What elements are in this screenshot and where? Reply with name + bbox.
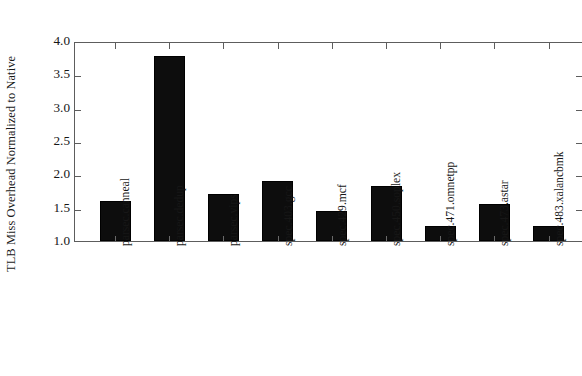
y-axis-title-container: TLB Miss Overhead Normalized to Native: [0, 0, 28, 280]
y-axis-tick-3.5: [75, 76, 81, 77]
y-axis-tick-label: 2.0: [28, 166, 70, 182]
x-axis-top-tick-parsec.canneal: [115, 43, 116, 49]
x-axis-bottom-tick-spec.473.astar: [494, 236, 495, 241]
x-axis-bottom-tick-spec.483.xalancbmk: [549, 236, 550, 241]
y-axis-tick-right-3.5: [576, 76, 582, 77]
x-axis-top-tick-spec.483.xalancbmk: [549, 43, 550, 49]
x-axis-bottom-tick-parsec.dedup: [169, 236, 170, 241]
y-axis-title: TLB Miss Overhead Normalized to Native: [4, 56, 19, 272]
y-axis-tick-right-1.5: [576, 210, 582, 211]
y-axis-tick-1.5: [75, 210, 81, 211]
x-axis-top-tick-parsec.vips: [223, 43, 224, 49]
y-axis-tick-2.0: [75, 176, 81, 177]
y-axis-tick-right-2.5: [576, 143, 582, 144]
x-axis-bottom-tick-spec.403.gcc: [278, 236, 279, 241]
x-axis-top-tick-spec.473.astar: [494, 43, 495, 49]
y-axis-tick-2.5: [75, 143, 81, 144]
y-axis-tick-label: 3.0: [28, 100, 70, 116]
y-axis-tick-label: 1.5: [28, 200, 70, 216]
x-axis-bottom-tick-spec.471.omnetpp: [440, 236, 441, 241]
x-axis-top-tick-spec.429.mcf: [332, 43, 333, 49]
x-axis-top-tick-spec.450.soplex: [386, 43, 387, 49]
x-axis-bottom-tick-spec.429.mcf: [332, 236, 333, 241]
y-axis-tick-label: 3.5: [28, 66, 70, 82]
x-axis-top-tick-spec.471.omnetpp: [440, 43, 441, 49]
bar-chart-figure: TLB Miss Overhead Normalized to Native 1…: [0, 0, 582, 376]
y-axis-tick-3.0: [75, 110, 81, 111]
x-axis-bottom-tick-parsec.vips: [223, 236, 224, 241]
y-axis-tick-labels: 1.01.52.02.53.03.54.0: [28, 0, 70, 376]
x-axis-top-tick-spec.403.gcc: [278, 43, 279, 49]
y-axis-tick-right-2.0: [576, 176, 582, 177]
y-axis-tick-label: 2.5: [28, 133, 70, 149]
x-axis-tick-labels: parsec.cannealparsec.dedupparsec.vipsspe…: [74, 246, 582, 376]
y-axis-tick-label: 4.0: [28, 33, 70, 49]
y-axis-tick-label: 1.0: [28, 233, 70, 249]
x-axis-bottom-tick-spec.450.soplex: [386, 236, 387, 241]
x-axis-bottom-tick-parsec.canneal: [115, 236, 116, 241]
x-axis-top-tick-parsec.dedup: [169, 43, 170, 49]
y-axis-tick-right-3.0: [576, 110, 582, 111]
